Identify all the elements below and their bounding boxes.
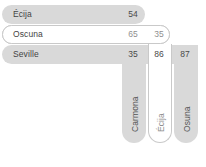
- column-label-osuna: Osuna: [182, 106, 192, 132]
- cell-seville-ecija[interactable]: 86: [147, 49, 171, 59]
- row-label-seville: Seville: [13, 49, 39, 59]
- cell-ecija-carmona[interactable]: 54: [121, 9, 145, 19]
- cell-seville-osuna[interactable]: 87: [173, 49, 197, 59]
- row-label-oscuna: Oscuna: [13, 29, 43, 39]
- distance-matrix-widget: Écija Oscuna Seville 54 65 35 35 86 87 C…: [0, 0, 206, 167]
- cell-oscuna-ecija[interactable]: 35: [147, 29, 171, 39]
- row-label-ecija: Écija: [13, 9, 32, 19]
- column-label-ecija: Écija: [156, 113, 166, 132]
- cell-seville-carmona[interactable]: 35: [121, 49, 145, 59]
- cell-oscuna-carmona[interactable]: 65: [121, 29, 145, 39]
- column-label-carmona: Carmona: [130, 96, 140, 132]
